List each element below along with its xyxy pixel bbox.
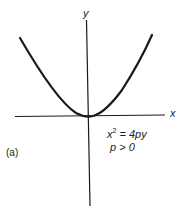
y-axis — [87, 20, 91, 206]
y-axis-label: y — [83, 8, 89, 19]
panel-label: (a) — [6, 148, 18, 158]
parabola-diagram — [0, 0, 184, 210]
condition-label: p > 0 — [110, 142, 135, 153]
parabola-curve — [20, 35, 152, 117]
equation-rhs: = 4py — [116, 128, 146, 140]
x-axis-label: x — [170, 108, 176, 119]
equation-label: x2 = 4py — [107, 127, 147, 140]
